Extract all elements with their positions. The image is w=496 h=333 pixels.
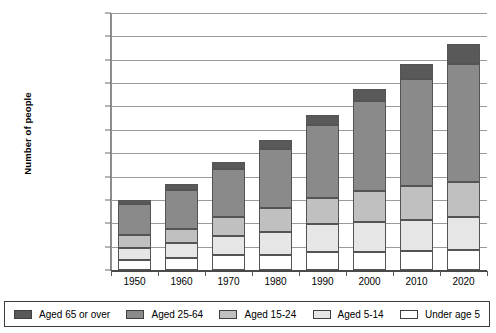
bar-segment-aged-5-14[interactable] [118,248,151,260]
legend-swatch-icon [14,310,32,319]
bar-segment-aged-15-24[interactable] [353,191,386,222]
chart-plot-panel: Number of people 8,800,000,0008,000,000,… [0,0,496,294]
bar-segment-aged-15-24[interactable] [118,235,151,248]
legend-item-label: Aged 25-64 [151,309,203,320]
bar-segment-aged-65-or-over[interactable] [118,200,151,204]
bar-segment-aged-5-14[interactable] [353,222,386,252]
bar-segment-aged-5-14[interactable] [447,217,480,250]
y-axis-title: Number of people [22,74,33,194]
legend-item-aged-65-or-over[interactable]: Aged 65 or over [14,309,110,320]
bar-segment-aged-25-64[interactable] [118,204,151,235]
bar-segment-aged-25-64[interactable] [306,125,339,198]
bar-segment-aged-65-or-over[interactable] [400,64,433,79]
stacked-bar-1980[interactable] [259,140,292,270]
bar-segment-under-age-5[interactable] [212,255,245,270]
bar-segment-aged-5-14[interactable] [259,232,292,254]
bar-segment-aged-5-14[interactable] [165,243,198,257]
bar-segment-under-age-5[interactable] [118,260,151,270]
legend-item-label: Under age 5 [425,309,480,320]
bar-segment-aged-25-64[interactable] [212,169,245,218]
bar-segment-under-age-5[interactable] [259,255,292,270]
gridline [111,36,487,37]
bar-segment-aged-65-or-over[interactable] [447,44,480,64]
bar-segment-aged-15-24[interactable] [400,186,433,220]
x-tick-mark [487,271,488,276]
gridline [111,13,487,14]
stacked-bar-1960[interactable] [165,184,198,270]
bar-segment-aged-25-64[interactable] [259,149,292,209]
legend-swatch-icon [313,310,331,319]
bar-segment-under-age-5[interactable] [306,252,339,270]
population-by-age-chart-figure: Number of people 8,800,000,0008,000,000,… [0,0,496,333]
bar-segment-aged-25-64[interactable] [353,101,386,191]
legend-swatch-icon [126,310,144,319]
bar-segment-aged-15-24[interactable] [259,208,292,232]
bar-segment-aged-25-64[interactable] [400,79,433,186]
plot-area [111,13,487,270]
bar-segment-aged-65-or-over[interactable] [165,184,198,190]
bar-segment-under-age-5[interactable] [353,252,386,270]
legend-item-under-age-5[interactable]: Under age 5 [400,309,480,320]
legend-swatch-icon [219,310,237,319]
legend-item-aged-5-14[interactable]: Aged 5-14 [313,309,384,320]
chart-legend: Aged 65 or overAged 25-64Aged 15-24Aged … [4,301,490,327]
bar-segment-aged-15-24[interactable] [306,198,339,225]
legend-item-label: Aged 5-14 [338,309,384,320]
legend-item-label: Aged 65 or over [39,309,110,320]
bar-segment-aged-5-14[interactable] [400,220,433,252]
bar-segment-aged-15-24[interactable] [165,229,198,243]
bar-segment-aged-5-14[interactable] [306,224,339,251]
stacked-bar-2010[interactable] [400,64,433,270]
legend-item-label: Aged 15-24 [244,309,296,320]
bar-segment-under-age-5[interactable] [447,250,480,270]
stacked-bar-1950[interactable] [118,200,151,270]
bar-segment-aged-25-64[interactable] [447,64,480,182]
stacked-bar-1970[interactable] [212,162,245,270]
stacked-bar-1990[interactable] [306,115,339,270]
legend-item-aged-25-64[interactable]: Aged 25-64 [126,309,203,320]
legend-swatch-icon [400,310,418,319]
bar-segment-under-age-5[interactable] [165,258,198,270]
bar-segment-aged-65-or-over[interactable] [306,115,339,125]
bar-segment-aged-65-or-over[interactable] [353,89,386,101]
legend-item-aged-15-24[interactable]: Aged 15-24 [219,309,296,320]
gridline [111,60,487,61]
bar-segment-aged-65-or-over[interactable] [212,162,245,169]
x-tick-label-2020: 2020 [434,276,494,287]
bar-segment-aged-5-14[interactable] [212,236,245,255]
bar-segment-aged-25-64[interactable] [165,190,198,229]
bar-segment-under-age-5[interactable] [400,251,433,270]
bar-segment-aged-65-or-over[interactable] [259,140,292,148]
bar-segment-aged-15-24[interactable] [212,217,245,235]
bar-segment-aged-15-24[interactable] [447,182,480,217]
stacked-bar-2020[interactable] [447,44,480,270]
stacked-bar-2000[interactable] [353,89,386,270]
